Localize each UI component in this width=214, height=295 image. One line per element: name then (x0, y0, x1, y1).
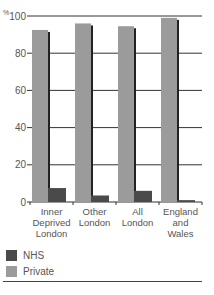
x-category-label: London (79, 217, 111, 228)
legend-item-private: Private (6, 266, 54, 277)
x-category-label: London (122, 217, 154, 228)
bar-nhs (91, 195, 109, 202)
bar-private (32, 30, 48, 202)
x-category-label: England (163, 206, 198, 217)
x-category-label: Deprived (32, 217, 70, 228)
bar-chart: 020406080100%InnerDeprivedLondonOtherLon… (0, 0, 214, 260)
x-category-label: London (36, 228, 68, 239)
y-tick-label: 40 (15, 122, 27, 133)
legend-item-nhs: NHS (6, 250, 44, 261)
bar-nhs (48, 188, 66, 202)
y-tick-label: 60 (15, 85, 27, 96)
bar-private (118, 26, 134, 202)
bottom-divider (3, 281, 202, 282)
x-category-label: Wales (167, 228, 193, 239)
bar-private (161, 18, 177, 202)
nhs-swatch-icon (6, 250, 17, 261)
y-unit-label: % (3, 9, 9, 16)
bar-private (75, 23, 91, 202)
bar-nhs (177, 200, 195, 202)
y-tick-label: 0 (20, 197, 26, 208)
y-tick-label: 80 (15, 48, 27, 59)
x-category-label: Inner (41, 206, 63, 217)
y-tick-label: 20 (15, 159, 27, 170)
x-category-label: Other (83, 206, 107, 217)
x-category-label: and (173, 217, 189, 228)
x-category-label: All (132, 206, 143, 217)
legend-label-private: Private (23, 266, 54, 277)
y-tick-label: 100 (9, 11, 26, 22)
private-swatch-icon (6, 266, 17, 277)
bar-nhs (134, 191, 152, 202)
legend-label-nhs: NHS (23, 250, 44, 261)
